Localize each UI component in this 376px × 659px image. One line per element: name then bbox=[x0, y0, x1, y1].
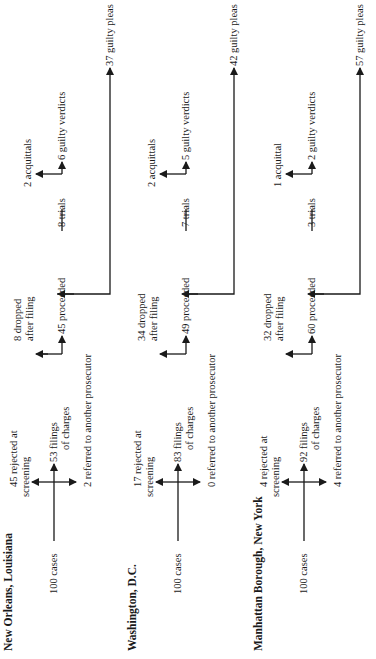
start-label: 100 cases bbox=[298, 553, 310, 594]
referred-label: 4 referred to another prosecutor bbox=[332, 354, 344, 487]
verdicts-label: 6 guilty verdicts bbox=[56, 92, 68, 160]
verdicts-label: 5 guilty verdicts bbox=[180, 92, 192, 160]
flow-diagram: New Orleans, Louisiana 100 cases 45 reje… bbox=[0, 0, 376, 659]
proceeded-label: 45 proceeded bbox=[56, 278, 68, 334]
panel-title: New Orleans, Louisiana bbox=[2, 533, 14, 651]
pleas-label: 57 guilty pleas bbox=[354, 4, 366, 66]
referred-label: 2 referred to another prosecutor bbox=[82, 354, 94, 487]
rejected-label: 17 rejected atscreening bbox=[132, 430, 156, 487]
proceeded-label: 49 proceeded bbox=[180, 278, 192, 334]
dropped-label: 32 droppedafter filing bbox=[262, 293, 286, 341]
acquittals-label: 2 acquittals bbox=[22, 139, 34, 187]
dropped-label: 34 droppedafter filing bbox=[136, 293, 160, 341]
panel-new-orleans: New Orleans, Louisiana 100 cases 45 reje… bbox=[0, 0, 120, 659]
rejected-label: 4 rejected atscreening bbox=[258, 436, 282, 487]
pleas-label: 37 guilty pleas bbox=[104, 4, 116, 66]
trials-label: 7 trials bbox=[180, 198, 192, 227]
start-label: 100 cases bbox=[48, 553, 60, 594]
filings-label: 83 filingsof charges bbox=[172, 407, 196, 462]
pleas-label: 42 guilty pleas bbox=[228, 4, 240, 66]
panel-washington: Washington, D.C. 100 cases 17 rejected a… bbox=[124, 0, 244, 659]
proceeded-label: 60 proceeded bbox=[306, 278, 318, 334]
filings-label: 53 filingsof charges bbox=[48, 407, 72, 462]
panel-title: Manhattan Borough, New York bbox=[252, 496, 264, 651]
trials-label: 8 trials bbox=[56, 198, 68, 227]
acquittals-label: 2 acquittals bbox=[146, 139, 158, 187]
filings-label: 92 filingsof charges bbox=[298, 407, 322, 462]
referred-label: 0 referred to another prosecutor bbox=[206, 354, 218, 487]
acquittals-label: 1 acquittal bbox=[272, 143, 284, 187]
verdicts-label: 2 guilty verdicts bbox=[306, 92, 318, 160]
start-label: 100 cases bbox=[172, 553, 184, 594]
panel-manhattan: Manhattan Borough, New York 100 cases 4 … bbox=[250, 0, 370, 659]
trials-label: 3 trials bbox=[306, 198, 318, 227]
dropped-label: 8 droppedafter filing bbox=[12, 296, 36, 341]
panel-title: Washington, D.C. bbox=[126, 564, 138, 651]
rejected-label: 45 rejected atscreening bbox=[8, 430, 32, 487]
